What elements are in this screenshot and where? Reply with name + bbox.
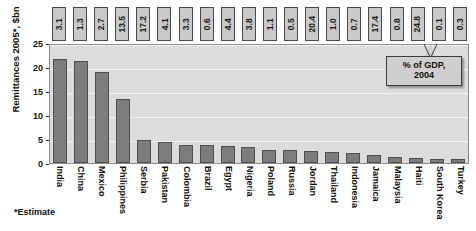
y-axis-tick-label: 0 — [38, 160, 43, 169]
gdp-value-box: 17.2 — [136, 7, 150, 41]
bar — [325, 152, 339, 163]
x-axis-category-text: Turkey — [455, 166, 464, 195]
gdp-value-label: 3.8 — [245, 18, 254, 30]
gdp-value-box: 3.1 — [52, 7, 66, 41]
gdp-value-box: 3.3 — [179, 7, 193, 41]
x-axis-category-text: Philippines — [118, 166, 127, 214]
gdp-value-label: 0.3 — [456, 18, 465, 30]
bar — [116, 99, 130, 163]
y-axis-tick-labels: 0510152025 — [24, 44, 46, 164]
bar — [137, 140, 151, 163]
x-axis-category-label: Poland — [263, 166, 277, 224]
gdp-value-box: 24.8 — [411, 7, 425, 41]
x-axis-category-text: Colombia — [181, 166, 190, 207]
x-axis-category-label: Haiti — [411, 166, 425, 224]
x-axis-category-text: Nigeria — [244, 166, 253, 197]
gdp-value-box: 0.5 — [284, 7, 298, 41]
remittances-bar-chart: 3.11.32.713.517.24.13.30.64.43.81.10.520… — [0, 0, 476, 231]
gdp-value-box-row: 3.11.32.713.517.24.13.30.64.43.81.10.520… — [52, 4, 467, 41]
x-axis-category-label: Mexico — [94, 166, 108, 224]
gdp-value-box: 2.7 — [94, 7, 108, 41]
gdp-value-box: 0.7 — [347, 7, 361, 41]
gdp-value-box: 20.4 — [305, 7, 319, 41]
x-axis-category-label: Brazil — [200, 166, 214, 224]
callout-line-2: 2004 — [389, 70, 459, 80]
x-axis-category-label: Egypt — [221, 166, 235, 224]
gdp-value-label: 0.8 — [392, 18, 401, 30]
bar — [451, 159, 465, 163]
gdp-value-box: 3.8 — [242, 7, 256, 41]
gdp-value-box: 0.8 — [390, 7, 404, 41]
x-axis-category-text: Russia — [287, 166, 296, 196]
bar — [346, 153, 360, 163]
bar — [74, 61, 88, 163]
gdp-value-label: 24.8 — [413, 16, 422, 33]
gdp-value-box: 4.1 — [157, 7, 171, 41]
x-axis-category-label: South Korea — [432, 166, 446, 224]
x-axis-category-label: Russia — [284, 166, 298, 224]
gdp-value-box: 0.6 — [200, 7, 214, 41]
callout-line-1: % of GDP, — [389, 60, 459, 70]
gdp-value-box: 13.5 — [115, 7, 129, 41]
gdp-value-label: 0.7 — [350, 18, 359, 30]
x-axis-category-text: South Korea — [434, 166, 443, 220]
gdp-value-label: 1.1 — [266, 18, 275, 30]
gdp-value-box: 1.0 — [326, 7, 340, 41]
bar — [283, 150, 297, 163]
x-axis-category-text: Thailand — [329, 166, 338, 203]
x-axis-category-label: Serbia — [136, 166, 150, 224]
gdp-value-label: 3.1 — [55, 18, 64, 30]
gdp-value-label: 1.0 — [329, 18, 338, 30]
bar — [241, 147, 255, 163]
x-axis-category-label: Indonesia — [347, 166, 361, 224]
bar — [179, 145, 193, 163]
bar — [304, 151, 318, 163]
bar — [430, 159, 444, 163]
gdp-value-label: 4.4 — [223, 18, 232, 30]
bar — [409, 158, 423, 163]
x-axis-category-label: Turkey — [453, 166, 467, 224]
x-axis-category-label: Jamaica — [368, 166, 382, 224]
x-axis-category-text: Indonesia — [350, 166, 359, 208]
x-axis-category-text: Serbia — [139, 166, 148, 194]
x-axis-category-label: Philippines — [115, 166, 129, 224]
gdp-value-label: 0.6 — [202, 18, 211, 30]
gdp-value-box: 1.1 — [263, 7, 277, 41]
gdp-value-box: 17.4 — [368, 7, 382, 41]
x-axis-category-text: China — [76, 166, 85, 191]
y-axis-title: Remittances 2005*, $bn — [10, 1, 21, 119]
x-axis-category-label: Malaysia — [390, 166, 404, 224]
bar — [53, 59, 67, 163]
x-axis-category-text: Mexico — [97, 166, 106, 197]
bar — [262, 150, 276, 163]
x-axis-category-text: Malaysia — [392, 166, 401, 204]
x-axis-category-text: India — [55, 166, 64, 187]
y-axis-tick-label: 5 — [38, 136, 43, 145]
x-axis-category-text: Jamaica — [371, 166, 380, 202]
gdp-value-label: 0.1 — [434, 18, 443, 30]
x-axis-category-text: Haiti — [413, 166, 422, 186]
x-axis-category-text: Jordan — [308, 166, 317, 196]
gdp-value-label: 2.7 — [97, 18, 106, 30]
x-axis-category-label: Thailand — [326, 166, 340, 224]
x-axis-category-label: Colombia — [179, 166, 193, 224]
gdp-value-label: 0.5 — [287, 18, 296, 30]
bar — [388, 157, 402, 163]
x-axis-category-text: Brazil — [202, 166, 211, 191]
gdp-value-label: 4.1 — [160, 18, 169, 30]
gdp-value-label: 20.4 — [308, 16, 317, 33]
y-axis-tick-label: 15 — [33, 88, 43, 97]
bar — [221, 146, 235, 163]
bar — [95, 72, 109, 163]
gdp-value-box: 0.3 — [453, 7, 467, 41]
gdp-value-label: 3.3 — [181, 18, 190, 30]
bar — [200, 145, 214, 163]
gdp-value-box: 0.1 — [432, 7, 446, 41]
y-axis-tick-label: 10 — [33, 112, 43, 121]
x-axis-category-label: China — [73, 166, 87, 224]
x-axis-category-labels: IndiaChinaMexicoPhilippinesSerbiaPakista… — [52, 166, 467, 224]
gdp-value-box: 1.3 — [73, 7, 87, 41]
x-axis-category-text: Poland — [265, 166, 274, 196]
gdp-callout-box: % of GDP, 2004 — [386, 56, 462, 86]
x-axis-category-label: Pakistan — [157, 166, 171, 224]
